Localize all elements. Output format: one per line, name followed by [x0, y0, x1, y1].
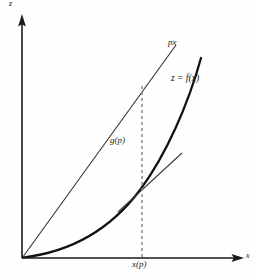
- figure-canvas: [0, 0, 256, 274]
- tangent-line: [118, 153, 182, 212]
- px-line: [23, 45, 177, 258]
- x-axis-label: x: [246, 252, 250, 260]
- z-axis: [18, 14, 26, 258]
- px-line-label: px: [168, 38, 177, 47]
- function-curve: [23, 58, 201, 258]
- function-curve-label: z = f(x): [171, 74, 199, 84]
- x-of-p-tick-label: x(p): [132, 260, 147, 269]
- gap-label: g(p): [110, 136, 125, 145]
- z-axis-label: z: [9, 0, 12, 8]
- legendre-transform-figure: z x px z = f(x) g(p) x(p): [0, 0, 256, 274]
